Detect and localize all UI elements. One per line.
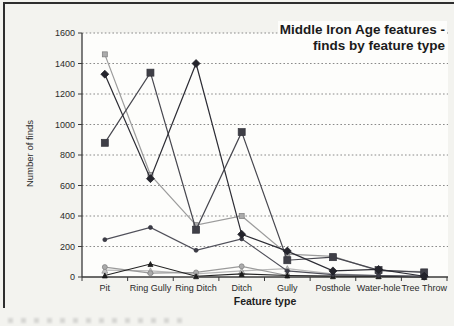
small-dot-series-marker-0 bbox=[103, 238, 107, 242]
x-category-label-4: Gully bbox=[277, 283, 298, 293]
light-gray-square-series-line bbox=[105, 54, 424, 271]
x-category-label-3: Ditch bbox=[231, 283, 252, 293]
y-tick-label-1000: 1000 bbox=[55, 120, 75, 130]
dark-square-series-marker-2 bbox=[193, 226, 200, 233]
dark-diamond-series-line bbox=[105, 64, 424, 277]
chart-title: Middle Iron Age features - finds by feat… bbox=[278, 21, 447, 55]
x-category-label-0: Pit bbox=[100, 283, 111, 293]
x-category-label-6: Water-hole bbox=[357, 283, 401, 293]
small-dot-series-marker-1 bbox=[148, 225, 152, 229]
small-dot-series-marker-6 bbox=[377, 273, 381, 277]
small-dot-series-marker-2 bbox=[194, 248, 198, 252]
light-gray-square-series-marker-3 bbox=[239, 214, 244, 219]
dark-diamond-series-marker-3 bbox=[238, 230, 246, 238]
x-category-label-5: Posthole bbox=[315, 283, 350, 293]
chart-title-line-2: finds by feature type bbox=[280, 38, 445, 54]
y-tick-label-1400: 1400 bbox=[55, 59, 75, 69]
x-category-label-1: Ring Gully bbox=[130, 283, 172, 293]
dark-square-series-marker-4 bbox=[284, 257, 291, 264]
dark-diamond-series-marker-0 bbox=[101, 70, 109, 78]
dark-diamond-series-marker-2 bbox=[192, 60, 200, 68]
y-tick-label-800: 800 bbox=[60, 150, 75, 160]
faint-caption-artifact bbox=[8, 318, 188, 323]
chart-title-line-1: Middle Iron Age features - bbox=[280, 22, 445, 38]
y-tick-label-600: 600 bbox=[60, 181, 75, 191]
dark-square-series-marker-5 bbox=[329, 254, 336, 261]
gray-circle-series-marker-0 bbox=[102, 265, 107, 270]
x-category-label-2: Ring Ditch bbox=[175, 283, 217, 293]
dark-square-series-marker-3 bbox=[238, 129, 245, 136]
gray-circle-series-marker-3 bbox=[239, 264, 244, 269]
y-axis-title: Number of finds bbox=[24, 94, 37, 214]
scanned-figure-page: 02004006008001000120014001600PitRing Gul… bbox=[0, 0, 454, 326]
gray-circle-series-marker-1 bbox=[148, 271, 153, 276]
small-dot-series-marker-4 bbox=[285, 269, 289, 273]
light-gray-square-series-marker-0 bbox=[102, 52, 107, 57]
y-tick-label-0: 0 bbox=[70, 272, 75, 282]
y-tick-label-400: 400 bbox=[60, 211, 75, 221]
y-tick-label-1600: 1600 bbox=[55, 28, 75, 38]
y-tick-label-200: 200 bbox=[60, 242, 75, 252]
dark-square-series-marker-0 bbox=[101, 139, 108, 146]
x-axis-title: Feature type bbox=[82, 295, 448, 307]
y-tick-label-1200: 1200 bbox=[55, 89, 75, 99]
x-category-label-7: Tree Throw bbox=[401, 283, 447, 293]
dark-square-series-marker-1 bbox=[147, 69, 154, 76]
